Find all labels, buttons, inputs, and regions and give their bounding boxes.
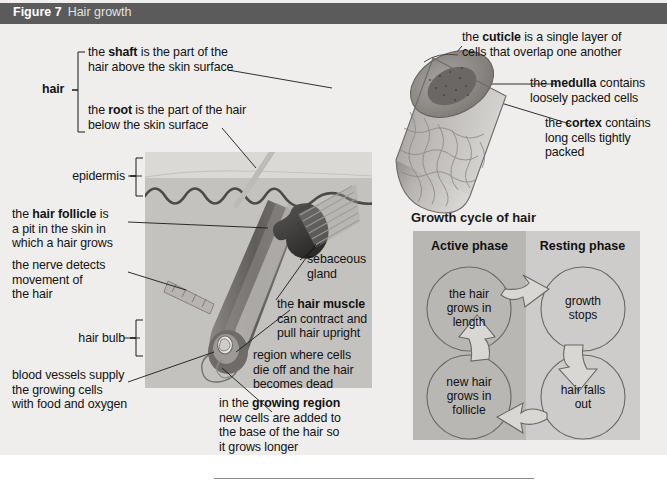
cycle-stage-grows-in-length: the hair grows in length — [429, 287, 509, 329]
figure-title-bar: Figure 7Hair growth — [0, 3, 667, 24]
cycle-stage-hair-falls-out: hair falls out — [543, 383, 623, 411]
label-dead-region: region where cells die off and the hair … — [253, 348, 378, 392]
label-medulla: the medulla contains loosely packed cell… — [530, 76, 667, 105]
label-hair-bracket: hair — [42, 82, 64, 97]
label-hair-muscle: the hair muscle can contract and pull ha… — [277, 297, 392, 341]
page-horizontal-rule — [214, 478, 534, 479]
label-blood-vessels: blood vessels supply the growing cells w… — [12, 368, 152, 412]
figure-title: Hair growth — [68, 5, 132, 19]
label-sebaceous-gland: sebaceous gland — [307, 252, 397, 281]
figure-number: Figure 7 — [13, 5, 62, 19]
label-hair-follicle: the hair follicle is a pit in the skin i… — [12, 207, 142, 251]
growth-cycle-diagram: Active phase Resting phase the hair grow… — [413, 231, 640, 440]
growth-cycle-title: Growth cycle of hair — [411, 210, 536, 225]
page-margin-below — [0, 455, 667, 490]
cycle-stage-new-hair: new hair grows in follicle — [429, 375, 509, 417]
label-growing-region: in the growing region new cells are adde… — [219, 396, 399, 454]
label-epidermis: epidermis — [20, 169, 125, 184]
label-hair-bulb: hair bulb — [20, 331, 125, 346]
label-cortex: the cortex contains long cells tightly p… — [545, 116, 667, 160]
label-root: the root is the part of the hair below t… — [88, 103, 258, 132]
label-shaft: the shaft is the part of the hair above … — [88, 45, 248, 74]
figure-page: Figure 7Hair growth — [0, 0, 667, 490]
label-nerve: the nerve detects movement of the hair — [12, 258, 142, 302]
label-cuticle: the cuticle is a single layer of cells t… — [462, 30, 667, 59]
epidermis-band — [145, 152, 372, 178]
figure-caption: Figure 7Hair growth — [13, 5, 132, 19]
cycle-stage-growth-stops: growth stops — [543, 294, 623, 322]
